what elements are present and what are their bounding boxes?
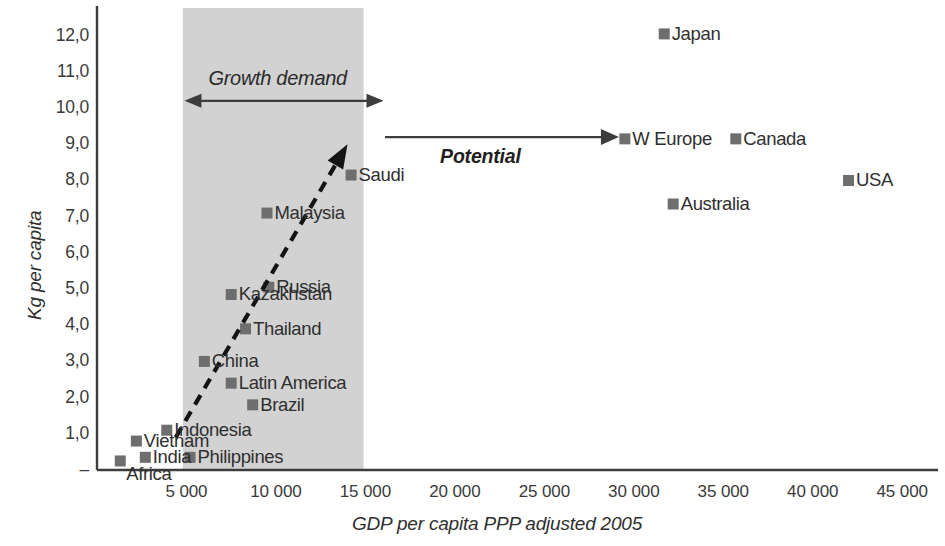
potential-arrow-head [601, 129, 619, 145]
data-point-marker [240, 323, 251, 334]
data-point-marker [226, 378, 237, 389]
point-label: Indonesia [174, 419, 251, 441]
growth-demand-label: Growth demand [208, 67, 346, 90]
data-point-marker [668, 199, 679, 210]
x-tick-label: 30 000 [584, 482, 684, 502]
point-label: Saudi [359, 164, 405, 186]
x-tick-label: 5 000 [136, 482, 236, 502]
potential-label: Potential [440, 145, 521, 168]
point-label: Malaysia [274, 202, 344, 224]
y-tick-label: 11,0 [29, 61, 89, 82]
x-tick-label: 40 000 [763, 482, 863, 502]
point-label: USA [856, 169, 893, 191]
data-point-marker [115, 455, 126, 466]
point-label: Thailand [253, 318, 321, 340]
point-label: Brazil [260, 394, 304, 416]
data-point-marker [226, 289, 237, 300]
x-tick-label: 35 000 [673, 482, 773, 502]
x-tick-label: 15 000 [315, 482, 415, 502]
scatter-chart: –1,02,03,04,05,06,07,08,09,010,011,012,0… [0, 0, 945, 546]
point-label: Canada [743, 128, 806, 150]
data-point-marker [199, 356, 210, 367]
y-tick-label: 9,0 [29, 133, 89, 154]
y-tick-label: 2,0 [29, 387, 89, 408]
y-tick-label: 1,0 [29, 423, 89, 444]
point-label: Japan [672, 23, 721, 45]
x-tick-label: 10 000 [226, 482, 326, 502]
x-tick-label: 25 000 [494, 482, 594, 502]
data-point-marker [131, 436, 142, 447]
data-point-marker [140, 452, 151, 463]
y-axis-title: Kg per capita [24, 211, 46, 320]
point-label: Philippines [198, 446, 284, 468]
data-point-marker [247, 399, 258, 410]
data-point-marker [730, 133, 741, 144]
point-label: China [212, 350, 259, 372]
y-tick-label: 10,0 [29, 97, 89, 118]
x-axis-title: GDP per capita PPP adjusted 2005 [352, 513, 642, 535]
growth-demand-arrow-right [367, 94, 384, 108]
point-label: Latin America [239, 372, 347, 394]
y-tick-label: 3,0 [29, 350, 89, 371]
point-label: Australia [681, 193, 750, 215]
y-tick-label: 8,0 [29, 169, 89, 190]
point-label: Russia [276, 276, 330, 298]
point-label: W Europe [632, 128, 711, 150]
data-point-marker [346, 170, 357, 181]
x-tick-label: 45 000 [852, 482, 945, 502]
data-point-marker [261, 208, 272, 219]
data-point-marker [843, 175, 854, 186]
data-point-marker [659, 28, 670, 39]
y-tick-label: 12,0 [29, 25, 89, 46]
data-point-marker [619, 133, 630, 144]
y-tick-label: – [29, 459, 89, 480]
x-tick-label: 20 000 [405, 482, 505, 502]
